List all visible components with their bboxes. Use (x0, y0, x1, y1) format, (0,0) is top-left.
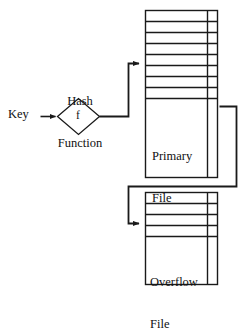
overflow-file-label-line1: Overflow (150, 275, 198, 289)
hash-function-label: Hash Function (45, 66, 115, 178)
overflow-file-label: Overflow File (150, 247, 198, 332)
primary-file-label: Primary File (152, 121, 192, 233)
hash-function-symbol-label: f (62, 109, 94, 122)
hash-function-label-line1: Hash (45, 94, 115, 108)
hash-function-label-line2: Function (45, 136, 115, 150)
primary-file-label-line1: Primary (152, 149, 192, 163)
key-label: Key (8, 107, 29, 121)
overflow-file-label-line2: File (150, 317, 198, 331)
primary-file-label-line2: File (152, 191, 192, 205)
